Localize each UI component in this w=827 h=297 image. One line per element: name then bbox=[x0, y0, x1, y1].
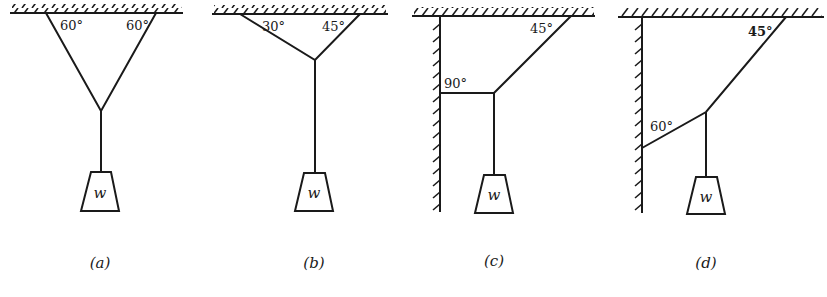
panel-a: 60° 60° w (a) bbox=[10, 4, 183, 272]
ceiling bbox=[212, 5, 388, 14]
angle-label-left: 60° bbox=[60, 18, 83, 33]
weight-label: w bbox=[488, 186, 501, 204]
angle-label-left: 90° bbox=[444, 76, 467, 91]
panel-d: 60° 45° w (d) bbox=[618, 8, 824, 272]
angle-label-right: 60° bbox=[126, 18, 149, 33]
ceiling bbox=[618, 8, 824, 17]
panel-caption: (d) bbox=[695, 254, 716, 272]
angle-label-right: 45° bbox=[322, 19, 345, 34]
panel-caption: (c) bbox=[484, 252, 504, 270]
panel-c: 90° 45° w (c) bbox=[412, 7, 595, 270]
wall bbox=[635, 17, 642, 213]
panel-b: 30° 45° w (b) bbox=[212, 5, 388, 272]
wall bbox=[433, 16, 440, 212]
panel-caption: (b) bbox=[303, 254, 324, 272]
angle-label-left: 60° bbox=[650, 119, 673, 134]
weight-label: w bbox=[700, 188, 713, 206]
ceiling bbox=[412, 7, 595, 16]
angle-label-left: 30° bbox=[262, 19, 285, 34]
weight-label: w bbox=[94, 184, 107, 202]
weight-label: w bbox=[308, 184, 321, 202]
statics-figure: 60° 60° w (a) 30° 45° w (b) bbox=[0, 0, 827, 297]
angle-label-right: 45° bbox=[748, 24, 773, 39]
ceiling bbox=[10, 4, 183, 13]
panel-caption: (a) bbox=[90, 254, 111, 272]
angle-label-right: 45° bbox=[530, 21, 553, 36]
